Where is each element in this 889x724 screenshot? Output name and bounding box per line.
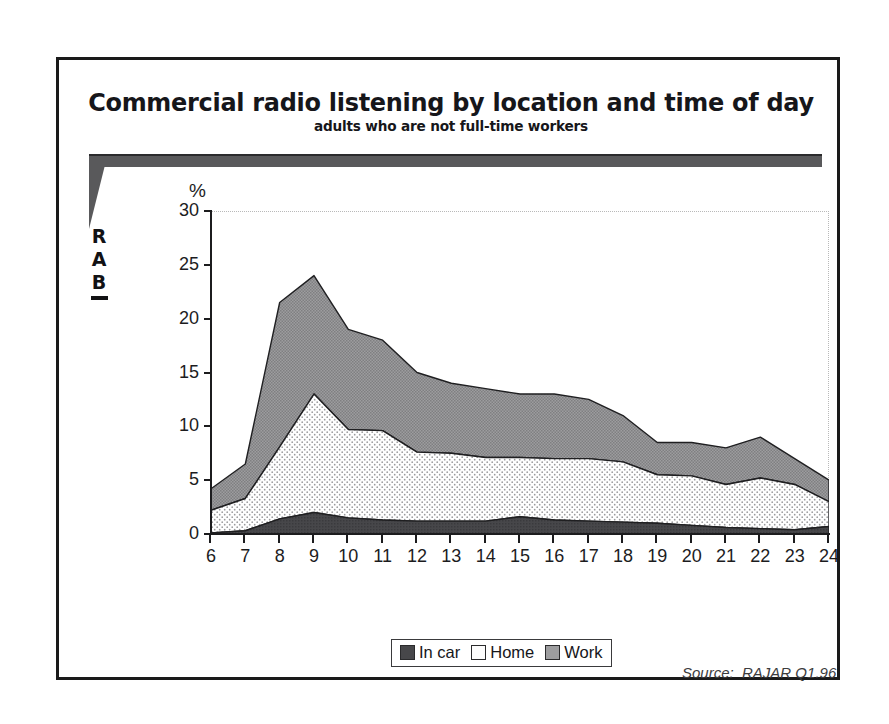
- y-tick-label: 10: [155, 415, 199, 436]
- x-tick-label: 8: [265, 546, 295, 567]
- legend-label-work: Work: [564, 643, 602, 662]
- y-tick: [204, 372, 211, 374]
- x-tick-label: 24: [814, 546, 844, 567]
- figure-frame: Commercial radio listening by location a…: [56, 57, 840, 680]
- x-tick: [346, 535, 348, 543]
- y-tick-label: 25: [155, 254, 199, 275]
- x-tick: [484, 535, 486, 543]
- x-tick: [827, 535, 829, 543]
- x-tick: [724, 535, 726, 543]
- x-tick: [518, 535, 520, 543]
- x-tick-label: 10: [333, 546, 363, 567]
- legend-item-in-car: In car: [400, 643, 460, 662]
- chart-legend: In car Home Work: [391, 639, 612, 667]
- stacked-area-svg: [211, 211, 829, 534]
- plot-area: [211, 211, 829, 534]
- x-tick-label: 6: [196, 546, 226, 567]
- y-tick: [204, 210, 211, 212]
- x-tick: [278, 535, 280, 543]
- x-tick-label: 18: [608, 546, 638, 567]
- x-tick-label: 13: [436, 546, 466, 567]
- x-tick: [312, 535, 314, 543]
- x-tick: [621, 535, 623, 543]
- x-tick-label: 14: [471, 546, 501, 567]
- x-tick: [655, 535, 657, 543]
- x-axis-line: [210, 533, 830, 535]
- rab-logo-letters: RAB: [82, 225, 116, 294]
- x-tick: [552, 535, 554, 543]
- legend-label-home: Home: [490, 643, 534, 662]
- x-tick-label: 7: [230, 546, 260, 567]
- y-tick: [204, 264, 211, 266]
- legend-item-work: Work: [545, 643, 602, 662]
- y-tick: [204, 425, 211, 427]
- x-tick: [243, 535, 245, 543]
- legend-label-in-car: In car: [419, 643, 460, 662]
- y-tick: [204, 479, 211, 481]
- rab-logo-bar: [89, 154, 822, 167]
- x-tick-label: 21: [711, 546, 741, 567]
- x-tick-label: 15: [505, 546, 535, 567]
- x-tick: [381, 535, 383, 543]
- x-tick: [758, 535, 760, 543]
- figure-page: Commercial radio listening by location a…: [0, 0, 889, 724]
- x-tick: [449, 535, 451, 543]
- x-tick-label: 20: [677, 546, 707, 567]
- y-tick-label: 20: [155, 308, 199, 329]
- x-tick-label: 17: [574, 546, 604, 567]
- x-tick: [209, 535, 211, 543]
- x-tick: [793, 535, 795, 543]
- rab-logo-wedge-icon: [89, 165, 105, 229]
- x-tick: [690, 535, 692, 543]
- x-tick: [415, 535, 417, 543]
- legend-item-home: Home: [471, 643, 534, 662]
- source-note: Source: RAJAR Q1.96: [682, 664, 836, 681]
- x-tick-label: 19: [642, 546, 672, 567]
- x-tick-label: 12: [402, 546, 432, 567]
- x-tick-label: 16: [539, 546, 569, 567]
- y-tick-label: 0: [155, 523, 199, 544]
- x-tick: [587, 535, 589, 543]
- page-subtitle: adults who are not full-time workers: [83, 118, 820, 134]
- y-tick-label: 5: [155, 469, 199, 490]
- x-tick-label: 22: [745, 546, 775, 567]
- y-axis-unit-label: %: [189, 180, 206, 202]
- x-tick-label: 9: [299, 546, 329, 567]
- y-tick-label: 15: [155, 362, 199, 383]
- y-tick-label: 30: [155, 200, 199, 221]
- legend-swatch-work: [545, 645, 560, 660]
- rab-logo-underline: [91, 296, 108, 300]
- legend-swatch-home: [471, 645, 486, 660]
- x-tick-label: 23: [780, 546, 810, 567]
- legend-swatch-in-car: [400, 645, 415, 660]
- y-tick: [204, 318, 211, 320]
- chart: %: [155, 180, 825, 660]
- x-tick-label: 11: [368, 546, 398, 567]
- page-title: Commercial radio listening by location a…: [83, 87, 820, 117]
